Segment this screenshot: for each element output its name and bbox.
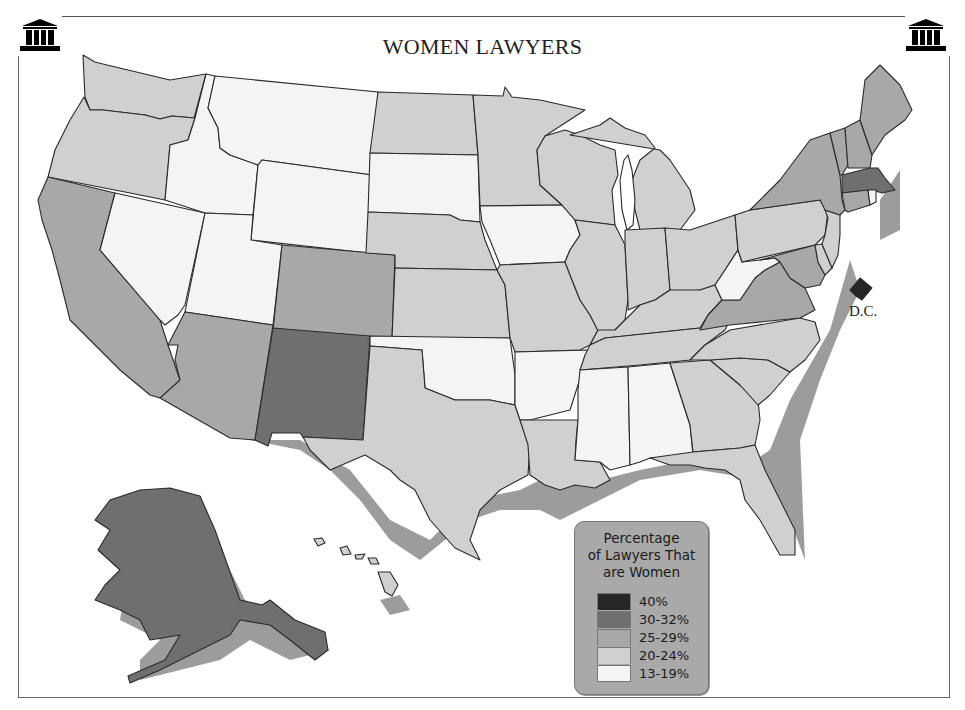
state-new-mexico (255, 328, 370, 446)
legend-label: 13-19% (639, 666, 689, 681)
states (38, 55, 912, 683)
state-mississippi (575, 367, 630, 470)
legend-swatch (597, 611, 631, 628)
legend-title-line-1: Percentage (575, 530, 708, 547)
state-maine (860, 65, 912, 155)
state-massachusetts (842, 168, 895, 193)
state-hawaii-molokai (355, 554, 365, 559)
lake-michigan (620, 155, 635, 230)
us-map (0, 0, 965, 710)
state-hawaii-oahu (340, 546, 351, 555)
legend-item-25-29: 25-29% (597, 628, 689, 646)
state-iowa (480, 205, 580, 265)
legend-swatch (597, 665, 631, 682)
legend-label: 30-32% (639, 612, 689, 627)
state-kansas (392, 268, 510, 338)
legend-swatch (597, 593, 631, 610)
legend-swatch (597, 629, 631, 646)
legend-title-line-2: of Lawyers That (575, 547, 708, 564)
legend-title: Percentage of Lawyers That are Women (575, 530, 708, 581)
legend-items: 40% 30-32% 25-29% 20-24% 13-19% (597, 592, 689, 682)
state-hawaii-big-island (378, 572, 398, 596)
legend-title-line-3: are Women (575, 564, 708, 581)
legend-item-30-32: 30-32% (597, 610, 689, 628)
legend-label: 20-24% (639, 648, 689, 663)
legend-label: 25-29% (639, 630, 689, 645)
legend-box: Percentage of Lawyers That are Women 40%… (574, 521, 709, 695)
legend-item-40: 40% (597, 592, 689, 610)
state-rhode-island (868, 190, 876, 205)
state-wyoming (251, 160, 372, 253)
dc-label: D.C. (849, 303, 877, 320)
state-connecticut (842, 190, 870, 212)
state-colorado (273, 245, 395, 340)
legend-item-20-24: 20-24% (597, 646, 689, 664)
state-washington (83, 55, 206, 119)
legend-item-13-19: 13-19% (597, 664, 689, 682)
state-north-dakota (370, 92, 478, 155)
legend-label: 40% (639, 594, 668, 609)
state-south-dakota (368, 153, 480, 222)
state-new-york (750, 133, 845, 215)
state-hawaii-maui (368, 558, 379, 564)
state-hawaii-kauai (314, 538, 325, 546)
legend-swatch (597, 647, 631, 664)
